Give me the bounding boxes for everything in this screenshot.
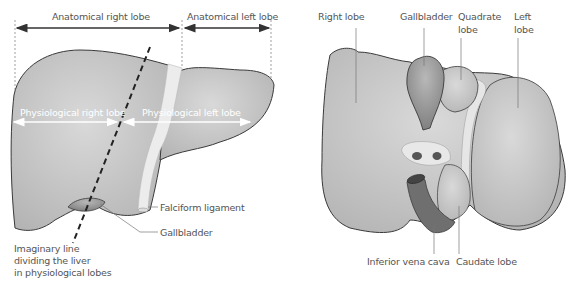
- right-lobe-label: Right lobe: [318, 11, 364, 22]
- left-lobe-label-2: lobe: [514, 24, 534, 35]
- anatomical-right-lobe-label: Anatomical right lobe: [52, 11, 150, 22]
- physiological-right-lobe-label: Physiological right lobe: [20, 107, 125, 118]
- anatomical-left-lobe-label: Anatomical left lobe: [187, 11, 278, 22]
- imaginary-line-label-1: Imaginary line: [14, 243, 79, 254]
- imaginary-line-label-3: in physiological lobes: [14, 267, 111, 278]
- portal-vessel-1: [412, 152, 422, 160]
- inferior-liver-view: [322, 28, 565, 254]
- left-lobe-shape: [471, 77, 560, 226]
- physiological-left-lobe-label: Physiological left lobe: [142, 107, 241, 118]
- quadrate-lobe-label-2: lobe: [458, 24, 478, 35]
- imaginary-line-label-2: dividing the liver: [14, 255, 90, 266]
- quadrate-lobe-label-1: Quadrate: [458, 11, 501, 22]
- caudate-lobe-label: Caudate lobe: [456, 256, 517, 267]
- inferior-vena-cava-label: Inferior vena cava: [367, 256, 450, 267]
- falciform-ligament-label: Falciform ligament: [160, 202, 244, 213]
- liver-diagram-canvas: [0, 0, 581, 289]
- left-lobe-label-1: Left: [514, 11, 531, 22]
- gallbladder-label-inferior: Gallbladder: [400, 11, 453, 22]
- gallbladder-label: Gallbladder: [160, 227, 213, 238]
- falciform-ligament-end: [138, 208, 148, 212]
- portal-vessel-2: [433, 152, 442, 160]
